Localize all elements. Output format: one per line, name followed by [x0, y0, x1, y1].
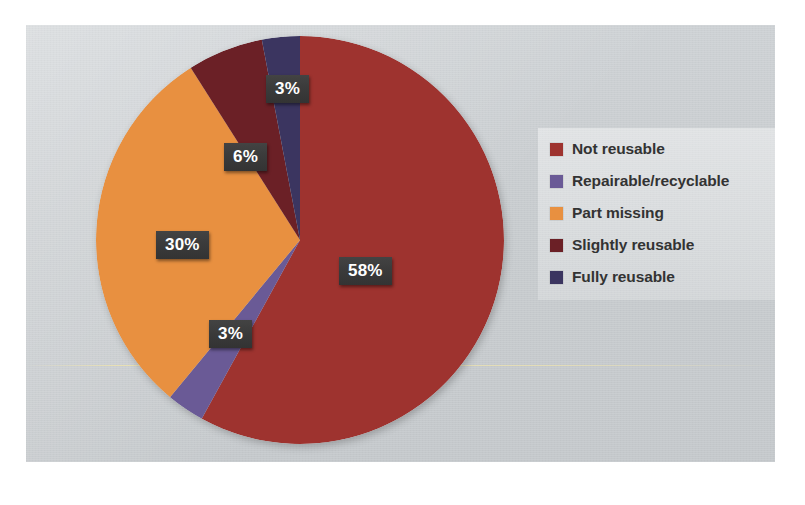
legend-item-label: Repairable/recyclable [572, 172, 729, 190]
legend-item-repairable-recyclable[interactable]: Repairable/recyclable [550, 172, 772, 190]
legend-swatch-icon [550, 207, 563, 220]
chart-legend: Not reusable Repairable/recyclable Part … [538, 128, 782, 300]
legend-item-part-missing[interactable]: Part missing [550, 204, 772, 222]
data-label-not-reusable: 58% [339, 257, 392, 285]
legend-item-label: Fully reusable [572, 268, 675, 286]
chart-page: 58% 3% 6% 30% 3% Not reusable Repairable… [0, 0, 805, 505]
legend-item-label: Not reusable [572, 140, 665, 158]
legend-item-fully-reusable[interactable]: Fully reusable [550, 268, 772, 286]
legend-swatch-icon [550, 143, 563, 156]
legend-item-not-reusable[interactable]: Not reusable [550, 140, 772, 158]
legend-swatch-icon [550, 271, 563, 284]
data-label-fully-reusable: 3% [266, 75, 309, 103]
legend-swatch-icon [550, 175, 563, 188]
legend-item-label: Slightly reusable [572, 236, 694, 254]
data-label-repairable-recyclable: 3% [209, 320, 252, 348]
legend-item-label: Part missing [572, 204, 664, 222]
data-label-part-missing: 30% [156, 231, 209, 259]
legend-swatch-icon [550, 239, 563, 252]
data-label-slightly-reusable: 6% [224, 143, 267, 171]
legend-item-slightly-reusable[interactable]: Slightly reusable [550, 236, 772, 254]
